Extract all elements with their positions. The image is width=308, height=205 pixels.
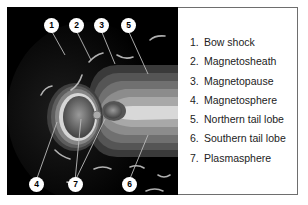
callout-badge-3: 3 [94, 18, 109, 33]
legend-item-magnetosheath: 2.Magnetosheath [190, 52, 286, 71]
legend-item-northern-tail-lobe: 5.Northern tail lobe [190, 110, 286, 129]
legend: 1.Bow shock 2.Magnetosheath 3.Magnetopau… [190, 33, 286, 168]
legend-item-plasmasphere: 7.Plasmasphere [190, 149, 286, 168]
legend-item-magnetopause: 3.Magnetopause [190, 72, 286, 91]
legend-item-bow-shock: 1.Bow shock [190, 33, 286, 52]
legend-item-magnetosphere: 4.Magnetosphere [190, 91, 286, 110]
callout-badge-6: 6 [122, 177, 137, 192]
callout-badge-1: 1 [44, 18, 59, 33]
callout-badge-2: 2 [69, 18, 84, 33]
magnetosphere-graphic [7, 7, 178, 195]
callout-badge-5: 5 [121, 18, 136, 33]
legend-item-southern-tail-lobe: 6.Southern tail lobe [190, 129, 286, 148]
callout-badge-7: 7 [68, 177, 83, 192]
magnetosphere-illustration: 1 2 3 4 7 5 6 [7, 7, 178, 195]
callout-badge-4: 4 [29, 177, 44, 192]
